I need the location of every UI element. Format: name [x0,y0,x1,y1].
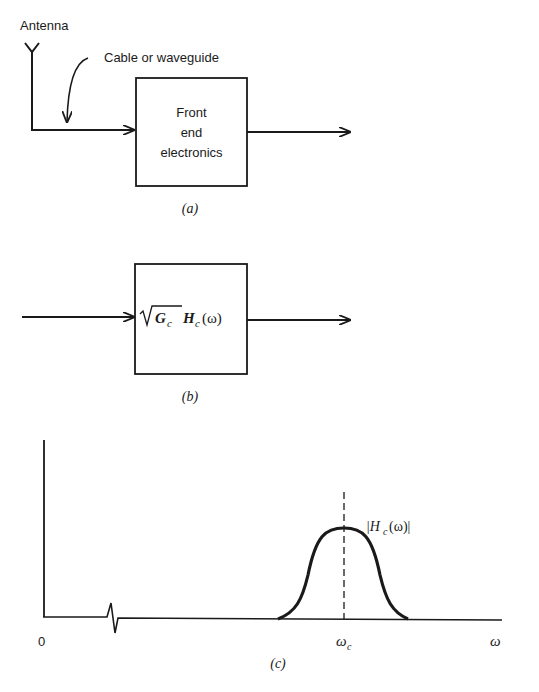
curve-label-bar: |H [366,519,381,534]
H-symbol: H [182,310,196,326]
cable-pointer-arrow [67,58,88,122]
block-line-1: Front [176,105,207,120]
center-label: ω [336,633,347,649]
panel-a: Antenna Cable or waveguide Front end ele… [20,18,350,217]
caption-a: (a) [182,201,199,217]
curve-label-arg: (ω)| [389,519,410,535]
x-axis [43,603,502,633]
curve-label-sub: c [383,526,388,537]
axis-label: ω [490,633,501,649]
antenna-label: Antenna [20,18,69,33]
panel-b: G c H c (ω) (b) [22,264,350,405]
sqrt-G-sub: c [167,317,172,329]
origin-label: 0 [38,634,45,649]
center-label-sub: c [347,641,352,652]
sqrt-G: G [155,310,166,326]
cable-label: Cable or waveguide [104,50,219,65]
panel-c: |H c (ω)| 0 ω c ω (c) [38,440,502,672]
antenna-icon [25,43,39,130]
H-sub: c [195,317,200,329]
block-line-2: end [181,125,203,140]
H-arg: (ω) [202,310,222,327]
caption-c: (c) [270,656,286,672]
bandpass-curve [278,528,408,619]
caption-b: (b) [182,389,199,405]
figure-canvas: Antenna Cable or waveguide Front end ele… [0,0,539,692]
block-line-3: electronics [160,145,223,160]
